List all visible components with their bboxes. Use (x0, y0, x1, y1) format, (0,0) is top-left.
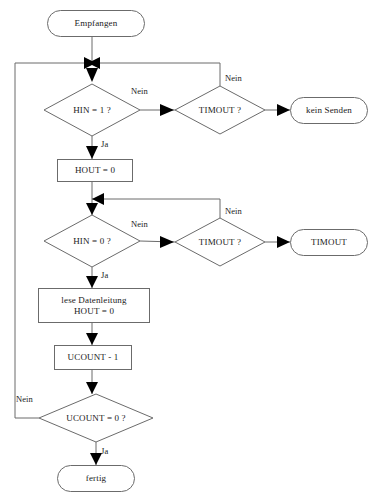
node-shape-ucount-dec (55, 346, 132, 370)
arrowhead-junction1-right (84, 57, 96, 69)
flowchart-canvas: Empfangen HIN = 1 ? TIMOUT ? kein Senden… (0, 0, 374, 498)
edge-timout1-nein-loop (92, 63, 220, 86)
node-shape-fertig (58, 466, 135, 492)
node-shape-lese (39, 289, 150, 323)
arrowhead-into-timout1 (160, 104, 174, 116)
arrowhead-into-fertig (90, 453, 102, 465)
edge-timout2-nein-loop (92, 199, 220, 218)
node-shape-ucount-check (39, 394, 153, 442)
node-shape-hout0 (58, 160, 133, 182)
arrowhead-into-hin0 (86, 203, 98, 215)
node-shape-timout-end (291, 230, 368, 256)
node-shape-timout1 (175, 86, 265, 134)
arrowhead-into-hin1 (86, 68, 98, 82)
arrowhead-into-kein-senden (277, 104, 290, 116)
flowchart-connectors (0, 0, 374, 498)
node-shape-start (48, 11, 145, 37)
node-shape-timout2 (175, 218, 265, 266)
arrowhead-into-timout-end (277, 236, 290, 248)
edge-ucount-nein-loop (15, 63, 92, 418)
node-shape-hin1 (44, 84, 140, 136)
arrowhead-into-timout2 (160, 236, 174, 248)
arrowhead-into-lese (86, 276, 98, 288)
arrowheads (84, 57, 290, 465)
arrowhead-into-ucount-dec (86, 333, 98, 345)
arrowhead-into-hout0 (86, 146, 98, 159)
node-shape-hin0 (44, 215, 140, 267)
arrowhead-into-ucount-check (86, 382, 98, 394)
node-shape-kein-senden (291, 98, 368, 124)
